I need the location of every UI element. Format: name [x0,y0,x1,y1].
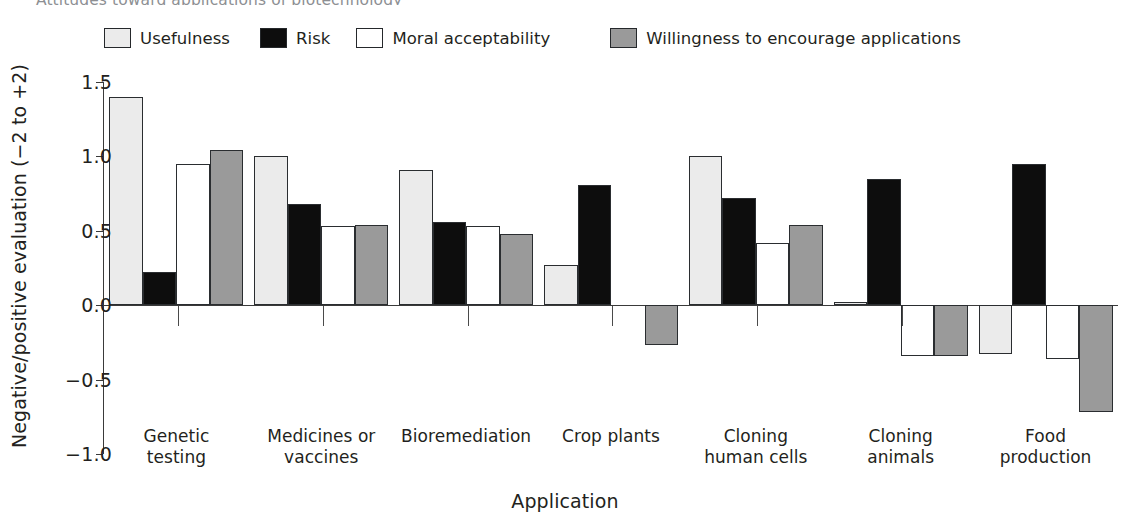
bar [689,156,723,305]
bar [399,170,433,305]
x-axis-group-tick [178,306,179,326]
x-axis-group-tick [902,306,903,326]
x-axis-category-label-line1: Bioremediation [401,426,531,447]
plot-area [104,82,1118,454]
y-axis-tick-label: 0.5 [0,220,112,242]
x-axis-category-label-line1: Cloning [704,426,807,447]
bar [901,305,935,356]
x-axis-category-label: Crop plants [562,426,660,447]
bar [176,164,210,305]
x-axis-category-label: Cloninghuman cells [704,426,807,468]
legend-swatch-icon [260,28,287,48]
bar [867,179,901,305]
bar [109,97,143,305]
x-axis-category-label: Bioremediation [401,426,531,447]
legend-item-risk: Risk [260,28,330,48]
x-axis-category-label-line2: testing [143,447,209,468]
x-axis-category-label-line1: Food [1000,426,1092,447]
y-axis-tick-label: 1.5 [0,71,112,93]
legend-item-moral-acceptability: Moral acceptability [356,28,550,48]
y-axis-tick-label: 1.0 [0,145,112,167]
x-axis-category-label-line2: vaccines [267,447,375,468]
bar [789,225,823,305]
bar [645,305,679,345]
x-axis-category-label: Medicines orvaccines [267,426,375,468]
bar [979,305,1013,354]
bar [355,225,389,305]
legend-label: Moral acceptability [392,29,550,48]
x-axis-category-label-line1: Genetic [143,426,209,447]
x-axis-category-label-line2: production [1000,447,1092,468]
bar [1012,164,1046,305]
bar [210,150,244,305]
bar [288,204,322,305]
legend-swatch-icon [610,28,637,48]
x-axis-category-label-line2: animals [867,447,934,468]
bar [756,243,790,305]
x-axis-group-tick [612,306,613,326]
bar [143,272,177,305]
clipped-figure-title: Attitudes toward applications of biotech… [0,0,1130,5]
x-axis-category-label-line1: Medicines or [267,426,375,447]
bar-chart-figure: Attitudes toward applications of biotech… [0,0,1130,527]
x-axis-category-label-line1: Crop plants [562,426,660,447]
legend-swatch-icon [104,28,131,48]
bar [934,305,968,356]
bar [254,156,288,305]
x-axis-group-tick [757,306,758,326]
bar [1046,305,1080,359]
bar [500,234,534,305]
bar [834,302,868,305]
x-axis-category-label-line2: human cells [704,447,807,468]
x-axis-title: Application [0,490,1130,512]
legend-label: Willingness to encourage applications [646,29,961,48]
legend-swatch-icon [356,28,383,48]
bar [578,185,612,306]
legend-label: Risk [296,29,330,48]
bar [466,226,500,305]
x-axis-group-tick [468,306,469,326]
legend-item-usefulness: Usefulness [104,28,230,48]
x-axis-category-label-line1: Cloning [867,426,934,447]
x-axis-category-label: Cloninganimals [867,426,934,468]
chart-legend: UsefulnessRiskMoral acceptabilityWilling… [104,25,961,51]
legend-label: Usefulness [140,29,230,48]
y-axis-tick-label: −0.5 [0,369,112,391]
x-axis-group-tick [323,306,324,326]
bar [1079,305,1113,412]
y-axis-tick-label: −1.0 [0,443,112,465]
bar [433,222,467,305]
legend-item-willingness-to-encourage-applications: Willingness to encourage applications [610,28,961,48]
bar [321,226,355,305]
x-axis-category-label: Genetictesting [143,426,209,468]
x-axis-category-label: Foodproduction [1000,426,1092,468]
bar [544,265,578,305]
bar [722,198,756,305]
y-axis-tick-label: 0.0 [0,294,112,316]
